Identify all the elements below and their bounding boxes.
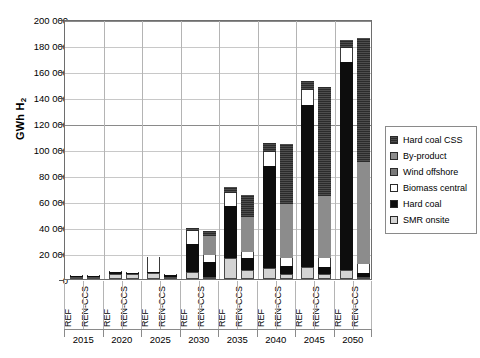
bar-segment-hccss (241, 195, 254, 218)
legend-item[interactable]: Biomass central (390, 180, 472, 196)
legend-item[interactable]: Hard coal CSS (390, 132, 472, 148)
scenario-separator (353, 281, 354, 329)
bar-segment-smr (164, 277, 177, 279)
year-label: 2030 (180, 334, 219, 345)
bar-2015-ref (70, 275, 83, 279)
scenario-separator (257, 281, 258, 329)
legend-item[interactable]: By-product (390, 148, 472, 164)
bar-segment-hccss (263, 143, 276, 151)
bar-segment-smr (224, 258, 237, 279)
group-separator (104, 21, 105, 279)
legend-item[interactable]: Wind offshore (390, 164, 472, 180)
bar-segment-hardcoal (203, 262, 216, 277)
year-tick (257, 330, 258, 337)
scenario-separator (199, 281, 200, 329)
scenario-label: REN-CCS (119, 283, 129, 327)
bar-segment-smr (263, 268, 276, 279)
legend-label: Hard coal (403, 199, 442, 209)
bar-2050-ref (340, 40, 353, 279)
scenario-separator (295, 281, 296, 329)
scenario-separator (314, 281, 315, 329)
plot-area (64, 20, 372, 280)
year-label: 2025 (141, 334, 180, 345)
group-separator (219, 21, 220, 279)
scenario-label: REN-CCS (196, 283, 206, 327)
year-tick (64, 330, 65, 337)
scenario-label: REN-CCS (80, 283, 90, 327)
bar-segment-hccss (301, 81, 314, 89)
year-tick (180, 330, 181, 337)
year-label: 2035 (218, 334, 257, 345)
legend-swatch-byproduct (390, 152, 398, 160)
bar-segment-smr (70, 277, 83, 279)
year-tick (218, 330, 219, 337)
bar-2035-ref (224, 187, 237, 279)
bar-2025-ren-ccs (164, 274, 177, 279)
bar-segment-biomass (357, 264, 370, 273)
scenario-label: REN-CCS (157, 283, 167, 327)
x-axis-year-labels: 20152020202520302035204020452050 (64, 329, 372, 353)
bar-2030-ref (186, 228, 199, 279)
bar-2030-ren-ccs (203, 231, 216, 279)
scenario-separator (103, 281, 104, 329)
year-label: 2040 (257, 334, 296, 345)
year-tick (334, 330, 335, 337)
bar-2020-ren-ccs (126, 272, 139, 279)
legend-label: Hard coal CSS (403, 135, 463, 145)
bar-2045-ref (301, 81, 314, 279)
bar-segment-smr (340, 270, 353, 279)
bar-segment-hardcoal (318, 267, 331, 274)
bar-segment-smr (126, 274, 139, 279)
bar-segment-smr (186, 272, 199, 279)
bar-segment-biomass (301, 90, 314, 106)
bar-2035-ren-ccs (241, 195, 254, 279)
year-tick (295, 330, 296, 337)
bar-segment-hardcoal (280, 266, 293, 274)
scenario-separator (237, 281, 238, 329)
scenario-separator (276, 281, 277, 329)
bar-2025-ref (147, 257, 160, 279)
bar-segment-biomass (280, 258, 293, 266)
scenario-separator (122, 281, 123, 329)
bar-segment-byproduct (357, 162, 370, 265)
bar-segment-smr (357, 277, 370, 279)
bar-segment-hccss (340, 40, 353, 48)
bar-segment-hccss (280, 144, 293, 203)
scenario-label: REN-CCS (234, 283, 244, 327)
group-separator (181, 21, 182, 279)
scenario-separator (64, 281, 65, 329)
bar-2050-ren-ccs (357, 38, 370, 279)
chart-legend: Hard coal CSSBy-productWind offshoreBiom… (385, 126, 477, 234)
bar-segment-biomass (340, 48, 353, 62)
year-label: 2020 (103, 334, 142, 345)
group-separator (335, 21, 336, 279)
bar-segment-hardcoal (340, 62, 353, 270)
scenario-separator (218, 281, 219, 329)
bar-2040-ren-ccs (280, 144, 293, 279)
plot-inner (65, 21, 371, 279)
bar-segment-biomass (318, 258, 331, 266)
legend-label: By-product (403, 151, 447, 161)
gridline (65, 73, 371, 74)
bar-segment-smr (87, 277, 100, 279)
bar-segment-byproduct (318, 196, 331, 258)
year-tick (141, 330, 142, 337)
bar-segment-smr (241, 270, 254, 279)
bar-segment-biomass (147, 257, 160, 272)
bar-segment-smr (147, 273, 160, 279)
legend-swatch-hccss (390, 136, 398, 144)
legend-item[interactable]: Hard coal (390, 196, 472, 212)
legend-label: Biomass central (403, 183, 467, 193)
group-separator (142, 21, 143, 279)
chart-figure: GWh H2 020 00040 00060 00080 000100 0001… (0, 0, 480, 358)
bar-segment-hardcoal (301, 105, 314, 266)
legend-item[interactable]: SMR onsite (390, 212, 472, 228)
scenario-separator (160, 281, 161, 329)
bar-segment-hccss (318, 87, 331, 196)
year-label: 2050 (334, 334, 373, 345)
scenario-separator (141, 281, 142, 329)
scenario-separator (371, 281, 372, 329)
bar-segment-biomass (224, 193, 237, 205)
scenario-separator (180, 281, 181, 329)
bar-segment-hardcoal (186, 244, 199, 273)
